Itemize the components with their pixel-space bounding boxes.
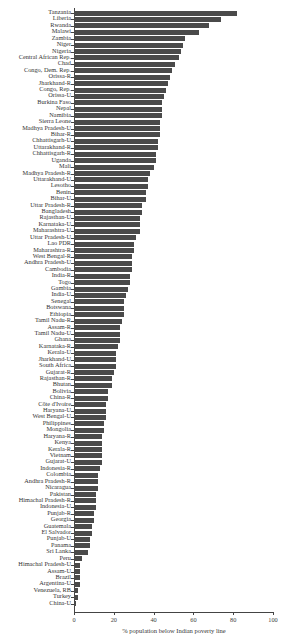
bar xyxy=(74,319,122,324)
bar xyxy=(74,601,76,606)
bar-row: Botswana xyxy=(0,305,292,311)
bar-row: Cambodia xyxy=(0,267,292,273)
bar-row: Indonesia-R xyxy=(0,466,292,472)
x-axis xyxy=(74,612,273,613)
bar xyxy=(74,556,82,561)
bar-row: Liberia xyxy=(0,16,292,22)
bar-row: Uttarakhand-U xyxy=(0,177,292,183)
x-tick xyxy=(193,612,194,615)
x-tick-label: 0 xyxy=(72,616,75,623)
bar-row: India-U xyxy=(0,292,292,298)
bar xyxy=(74,364,116,369)
bar-row: Congo, Rep. xyxy=(0,87,292,93)
bar xyxy=(74,383,112,388)
bar xyxy=(74,242,134,247)
bar xyxy=(74,254,132,259)
x-tick xyxy=(114,612,115,615)
bar-row: Rwanda xyxy=(0,23,292,29)
bar xyxy=(74,88,166,93)
bar xyxy=(74,537,90,542)
bar xyxy=(74,184,148,189)
bar xyxy=(74,120,160,125)
x-tick-label: 40 xyxy=(150,616,156,623)
bar xyxy=(74,36,185,41)
x-axis-label: % population below Indian poverty line xyxy=(122,627,225,634)
bar xyxy=(74,486,98,491)
bar xyxy=(74,280,130,285)
bar-row: Karnataka-R xyxy=(0,344,292,350)
bar xyxy=(74,43,183,48)
bar xyxy=(74,563,80,568)
bar xyxy=(74,325,120,330)
bar xyxy=(74,267,132,272)
bar xyxy=(74,550,88,555)
category-label: China-U xyxy=(49,599,71,607)
bar xyxy=(74,505,96,510)
bar xyxy=(74,421,104,426)
bar-row: Lesotho xyxy=(0,183,292,189)
bar xyxy=(74,498,96,503)
bar xyxy=(74,23,209,28)
bar xyxy=(74,11,237,16)
x-tick-label: 100 xyxy=(268,616,277,623)
bar xyxy=(74,569,80,574)
bar xyxy=(74,332,120,337)
x-tick-label: 20 xyxy=(111,616,117,623)
bar xyxy=(74,396,108,401)
bar-row: South Africa xyxy=(0,363,292,369)
poverty-bar-chart: TanzaniaLiberiaRwandaMalawiZambiaNigerNi… xyxy=(0,0,292,644)
bar-row: Congo, Dem. Rep. xyxy=(0,68,292,74)
bar xyxy=(74,575,80,580)
bar xyxy=(74,126,160,131)
bar xyxy=(74,518,94,523)
bar xyxy=(74,306,124,311)
bar xyxy=(74,113,162,118)
bar xyxy=(74,190,146,195)
bar xyxy=(74,49,181,54)
bar xyxy=(74,132,160,137)
x-tick xyxy=(154,612,155,615)
bar xyxy=(74,203,142,208)
bar xyxy=(74,274,130,279)
bar xyxy=(74,409,106,414)
bar xyxy=(74,582,80,587)
bar-row: Venezuela, RB xyxy=(0,588,292,594)
bar xyxy=(74,447,102,452)
bar xyxy=(74,216,140,221)
bar-row: Uganda xyxy=(0,158,292,164)
bar xyxy=(74,165,154,170)
bar xyxy=(74,441,102,446)
bar-row: Malawi xyxy=(0,29,292,35)
bar xyxy=(74,17,221,22)
x-tick-label: 80 xyxy=(230,616,236,623)
bar-row: Punjab-U xyxy=(0,536,292,542)
bar-row: Vietnam xyxy=(0,453,292,459)
bar xyxy=(74,210,142,215)
bar xyxy=(74,453,102,458)
bar xyxy=(74,222,140,227)
bar xyxy=(74,229,140,234)
bar-row: Zambia xyxy=(0,36,292,42)
bar-row: Kerala-R xyxy=(0,447,292,453)
bar-row: Indonesia-U xyxy=(0,504,292,510)
x-tick xyxy=(273,612,274,615)
bar-row: Burkina Faso xyxy=(0,100,292,106)
x-tick xyxy=(74,612,75,615)
bar xyxy=(74,261,132,266)
bar xyxy=(74,588,78,593)
bar xyxy=(74,531,92,536)
bar xyxy=(74,299,124,304)
bar xyxy=(74,434,102,439)
bar xyxy=(74,479,98,484)
bar xyxy=(74,94,164,99)
bar xyxy=(74,511,94,516)
bar xyxy=(74,338,120,343)
bar xyxy=(74,55,179,60)
bar-row: Madhya Pradesh-U xyxy=(0,126,292,132)
bar-row: Rajasthan-R xyxy=(0,376,292,382)
bar xyxy=(74,357,116,362)
bar-row: Gambia xyxy=(0,286,292,292)
bar xyxy=(74,158,156,163)
bar-row: Bolivia xyxy=(0,389,292,395)
bar xyxy=(74,402,106,407)
